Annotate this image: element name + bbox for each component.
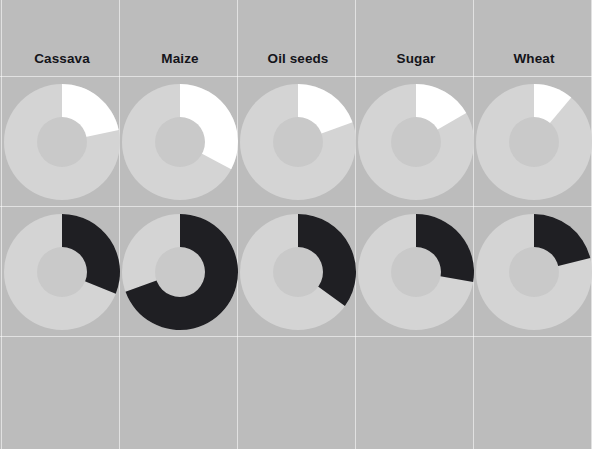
pie-inner-hole	[155, 117, 205, 167]
pie-chart-wheat-row1	[475, 76, 592, 206]
pie-inner-hole	[509, 117, 559, 167]
pie-inner-hole	[155, 247, 205, 297]
pie-chart-sugar-row2	[357, 206, 475, 336]
pie-chart-oil-seeds-row1	[239, 76, 357, 206]
pie-inner-hole	[273, 247, 323, 297]
pie-chart-cassava-row2	[3, 206, 121, 336]
pie-chart-oil-seeds-row2	[239, 206, 357, 336]
pie-cell-cassava-row3	[3, 336, 121, 449]
column-header-wheat: Wheat	[475, 0, 592, 76]
column-header-label: Oil seeds	[268, 51, 329, 66]
pie-chart-maize-row1	[121, 76, 239, 206]
pie-cell-cassava-row2	[3, 206, 121, 336]
column-header-sugar: Sugar	[357, 0, 475, 76]
column-header-label: Sugar	[397, 51, 436, 66]
pie-cell-sugar-row1	[357, 76, 475, 206]
column-header-maize: Maize	[121, 0, 239, 76]
pie-inner-hole	[37, 117, 87, 167]
column-header-oil-seeds: Oil seeds	[239, 0, 357, 76]
column-header-label: Cassava	[34, 51, 90, 66]
pie-cell-maize-row2	[121, 206, 239, 336]
pie-chart-sugar-row1	[357, 76, 475, 206]
pie-cell-sugar-row3	[357, 336, 475, 449]
pie-cell-maize-row1	[121, 76, 239, 206]
pie-chart-cassava-row1	[3, 76, 121, 206]
column-header-row: CassavaMaizeOil seedsSugarWheat	[0, 0, 592, 76]
pie-cell-oil-seeds-row2	[239, 206, 357, 336]
pie-cell-wheat-row1	[475, 76, 592, 206]
column-header-label: Wheat	[514, 51, 555, 66]
pie-inner-hole	[273, 117, 323, 167]
chart-canvas: CassavaMaizeOil seedsSugarWheat	[0, 0, 592, 449]
column-header-label: Maize	[161, 51, 198, 66]
pie-cell-wheat-row2	[475, 206, 592, 336]
pie-inner-hole	[509, 247, 559, 297]
pie-cell-oil-seeds-row3	[239, 336, 357, 449]
pie-chart-wheat-row2	[475, 206, 592, 336]
column-header-cassava: Cassava	[3, 0, 121, 76]
pie-cell-sugar-row2	[357, 206, 475, 336]
pie-cell-cassava-row1	[3, 76, 121, 206]
pie-chart-maize-row2	[121, 206, 239, 336]
pie-cell-maize-row3	[121, 336, 239, 449]
pie-inner-hole	[37, 247, 87, 297]
pie-cell-oil-seeds-row1	[239, 76, 357, 206]
pie-inner-hole	[391, 247, 441, 297]
pie-inner-hole	[391, 117, 441, 167]
pie-cell-wheat-row3	[475, 336, 592, 449]
